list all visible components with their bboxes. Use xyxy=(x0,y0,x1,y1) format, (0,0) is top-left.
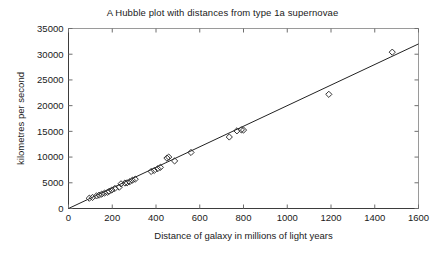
svg-text:25000: 25000 xyxy=(37,74,63,85)
hubble-scatter-plot: 02004006008001000120014001600 0500010000… xyxy=(0,0,445,258)
svg-text:1200: 1200 xyxy=(320,212,341,223)
chart-page: A Hubble plot with distances from type 1… xyxy=(0,0,445,258)
svg-text:600: 600 xyxy=(192,212,208,223)
svg-text:1600: 1600 xyxy=(408,212,429,223)
svg-text:15000: 15000 xyxy=(37,126,63,137)
svg-text:1400: 1400 xyxy=(364,212,385,223)
svg-text:30000: 30000 xyxy=(37,49,63,60)
svg-text:800: 800 xyxy=(236,212,252,223)
svg-text:35000: 35000 xyxy=(37,23,63,34)
x-tick-labels: 02004006008001000120014001600 xyxy=(66,212,429,223)
x-axis-title: Distance of galaxy in millions of light … xyxy=(154,230,333,241)
svg-text:0: 0 xyxy=(58,203,63,214)
svg-text:1000: 1000 xyxy=(277,212,298,223)
data-point-markers xyxy=(86,49,395,201)
svg-text:10000: 10000 xyxy=(37,151,63,162)
svg-text:200: 200 xyxy=(104,212,120,223)
y-axis-title: kilometres per second xyxy=(15,72,26,165)
svg-text:20000: 20000 xyxy=(37,100,63,111)
svg-text:0: 0 xyxy=(66,212,71,223)
svg-text:400: 400 xyxy=(148,212,164,223)
y-tick-labels: 05000100001500020000250003000035000 xyxy=(37,23,63,214)
axis-ticks xyxy=(69,29,419,209)
fit-line xyxy=(69,44,419,209)
plot-frame xyxy=(69,29,419,209)
svg-text:5000: 5000 xyxy=(42,177,63,188)
